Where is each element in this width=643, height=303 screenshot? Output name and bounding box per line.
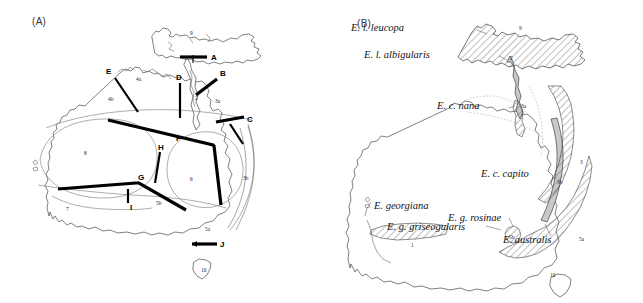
barrier-label-B: B [220, 69, 226, 78]
region-label-3b: 3b [243, 175, 249, 181]
west-coast-islands [33, 160, 38, 171]
region-label-b3: 3 [580, 159, 583, 165]
panel-b-map: 9 2 3a 3b 3 5a 5b 1 [321, 0, 643, 303]
barrier-line-C2 [230, 124, 243, 144]
barrier-label-I: I [130, 203, 132, 212]
panel-b: (B) 9 2 3a 3b 3 [321, 0, 643, 303]
barrier-label-E: E [106, 67, 112, 76]
taxon-label-nana: E. c. nana [437, 100, 480, 111]
panel-a: (A) 9 3b 10 [0, 0, 321, 303]
australia-outline-b [346, 101, 559, 291]
taxon-label-australis: E. australis [503, 234, 551, 245]
taxon-label-leucopa: E. l. leucopa [351, 22, 404, 33]
barrier-label-C: C [247, 115, 253, 124]
barrier-label-H: H [158, 143, 164, 152]
figure-root: (A) 9 3b 10 [0, 0, 643, 303]
barrier-label-D: D [176, 73, 182, 82]
region-label-4a: 4a [136, 76, 142, 82]
region-label-b2: 2 [510, 55, 513, 61]
region-label-b10: 10 [550, 272, 556, 278]
region-label-6: 6 [190, 176, 193, 182]
region-label-5a: 5a [205, 226, 211, 232]
barrier-label-G: G [138, 173, 144, 182]
region-label-b5a: 5a [579, 236, 585, 242]
taxon-label-georgiana: E. georgiana [374, 200, 428, 211]
region-label-5b: 5b [156, 200, 162, 206]
barrier-label-A: A [211, 53, 217, 62]
region-label-4b: 4b [108, 96, 114, 102]
region-label-9: 9 [190, 30, 193, 36]
region-label-b9: 9 [519, 25, 522, 31]
taxon-label-griseogularis: E. g. griseogularis [387, 221, 465, 232]
region-label-b1: 1 [411, 242, 414, 248]
region-label-7: 7 [66, 206, 69, 212]
region-label-10: 10 [201, 267, 207, 273]
region-label-b3a: 3a [521, 103, 527, 109]
region-label-3a: 3a [215, 98, 221, 104]
region-label-8: 8 [84, 150, 87, 156]
barrier-label-J: J [220, 240, 224, 249]
taxon-label-capito: E. c. capito [481, 168, 529, 179]
taxon-label-albigularis: E. l. albigularis [364, 49, 430, 60]
barrier-arrow-J [192, 241, 197, 247]
australia-outline [45, 67, 232, 235]
region-label-2: 2 [195, 95, 198, 101]
barrier-label-F: F [176, 134, 181, 143]
panel-a-map: 9 3b 10 2 3a 4a [0, 0, 321, 303]
